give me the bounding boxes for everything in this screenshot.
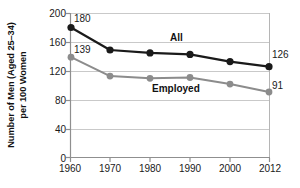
x-axis-ticks — [71, 158, 270, 162]
data-label-all-2012: 126 — [272, 49, 289, 60]
y-tick-160: 160 — [36, 37, 66, 48]
point-employed-1990 — [187, 74, 194, 81]
point-all-1980 — [146, 49, 153, 56]
y-axis-title-line1: Number of Men (Aged 25–34) — [6, 22, 16, 148]
y-tick-200: 200 — [36, 8, 66, 19]
point-all-1970 — [106, 46, 113, 53]
line-chart: Number of Men (Aged 25–34) per 100 Women… — [0, 0, 300, 188]
employed-series-label: Employed — [152, 83, 200, 94]
y-axis-title-line2: per 100 Women — [17, 51, 27, 118]
y-axis-ticks — [66, 14, 70, 158]
y-axis-title-text: Number of Men (Aged 25–34) per 100 Women — [6, 22, 29, 148]
point-all-1960 — [67, 24, 74, 31]
y-tick-40: 40 — [36, 124, 66, 135]
data-label-all-1960: 180 — [74, 13, 91, 24]
x-tick-2012: 2012 — [247, 163, 293, 174]
y-tick-120: 120 — [36, 66, 66, 77]
all-series-label: All — [170, 32, 183, 43]
point-employed-1970 — [107, 73, 114, 80]
data-label-employed-1960: 139 — [74, 44, 91, 55]
y-tick-0: 0 — [36, 153, 66, 164]
y-tick-80: 80 — [36, 95, 66, 106]
point-all-1990 — [186, 51, 193, 58]
point-employed-2000 — [227, 81, 234, 88]
y-axis-title: Number of Men (Aged 25–34) per 100 Women — [0, 0, 34, 170]
point-all-2000 — [226, 58, 233, 65]
data-label-employed-2012: 91 — [272, 80, 283, 91]
point-employed-1980 — [147, 75, 154, 82]
point-all-2012 — [265, 63, 272, 70]
